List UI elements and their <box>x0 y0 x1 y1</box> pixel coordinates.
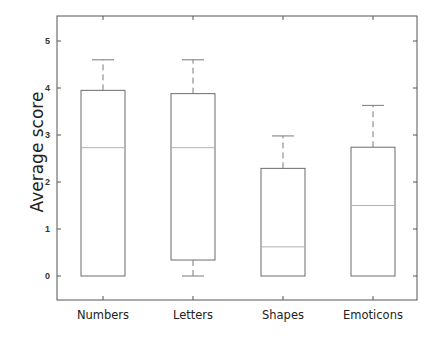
box-numbers <box>81 60 125 276</box>
y-tick-label: 5 <box>45 36 50 46</box>
iqr-box <box>171 94 215 260</box>
x-tick-label: Letters <box>173 308 213 322</box>
y-tick-label: 1 <box>45 224 50 234</box>
y-tick-label: 4 <box>45 83 50 93</box>
y-axis-ticks: 012345 <box>45 36 417 281</box>
iqr-box <box>351 147 395 276</box>
iqr-box <box>81 90 125 276</box>
box-plot-chart: 012345 NumbersLettersShapesEmoticons Ave… <box>0 0 434 339</box>
box-emoticons <box>351 105 395 276</box>
boxes-group <box>81 60 395 276</box>
box-letters <box>171 60 215 276</box>
x-tick-label: Numbers <box>77 308 129 322</box>
y-tick-label: 0 <box>45 271 50 281</box>
plot-frame <box>57 16 417 300</box>
box-shapes <box>261 136 305 276</box>
y-axis-label: Average score <box>27 92 47 213</box>
x-tick-label: Shapes <box>262 308 304 322</box>
iqr-box <box>261 168 305 276</box>
x-tick-label: Emoticons <box>343 308 403 322</box>
